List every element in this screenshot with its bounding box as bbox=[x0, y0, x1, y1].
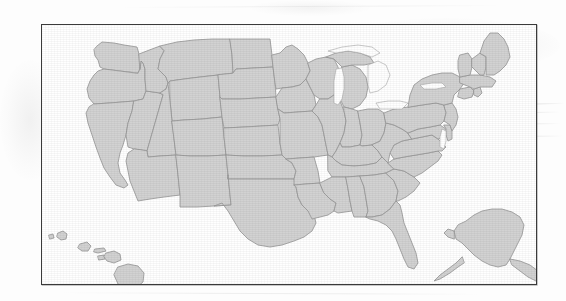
state-connecticut[interactable] bbox=[458, 87, 474, 99]
scanned-page bbox=[0, 0, 566, 301]
figure-frame bbox=[41, 24, 537, 285]
us-map[interactable] bbox=[42, 25, 536, 284]
state-new-hampshire[interactable] bbox=[472, 53, 486, 75]
hawaii-island-maui[interactable] bbox=[104, 251, 121, 263]
hawaii-island-kauai[interactable] bbox=[57, 231, 67, 240]
lake-huron bbox=[368, 61, 390, 93]
alaska-group bbox=[434, 209, 536, 281]
hawaii-island-oahu[interactable] bbox=[78, 242, 91, 251]
state-vermont[interactable] bbox=[458, 53, 472, 77]
hawaii-group bbox=[49, 231, 144, 284]
state-kansas[interactable] bbox=[224, 125, 282, 156]
figure-caption bbox=[0, 0, 1, 1]
hawaii-island-hawaii[interactable] bbox=[114, 264, 144, 284]
state-alaska[interactable] bbox=[434, 209, 536, 281]
state-colorado[interactable] bbox=[172, 117, 226, 156]
hawaii-island-molokai[interactable] bbox=[94, 248, 106, 253]
state-wyoming[interactable] bbox=[170, 75, 222, 121]
state-california[interactable] bbox=[86, 101, 134, 188]
toner-smudge bbox=[250, 0, 370, 16]
state-massachusetts[interactable] bbox=[460, 75, 496, 89]
state-nebraska[interactable] bbox=[220, 97, 280, 128]
state-washington[interactable] bbox=[94, 42, 141, 73]
state-new-mexico[interactable] bbox=[176, 155, 231, 207]
hawaii-island-niihau[interactable] bbox=[49, 234, 54, 239]
state-new-york[interactable] bbox=[408, 73, 464, 107]
scan-streak bbox=[120, 5, 500, 8]
scan-streak bbox=[60, 292, 480, 294]
state-arizona[interactable] bbox=[126, 149, 180, 201]
lake-erie bbox=[376, 101, 408, 109]
